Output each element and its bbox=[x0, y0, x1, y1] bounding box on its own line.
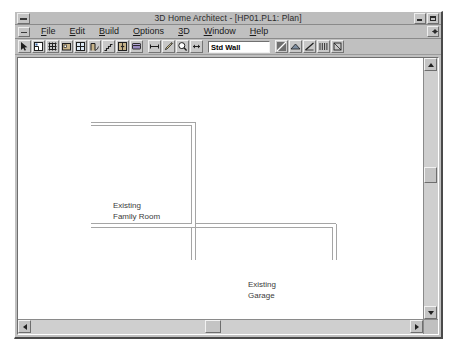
family-room-label-line1: Existing bbox=[113, 201, 141, 210]
menu-item-options[interactable]: Options bbox=[126, 25, 171, 38]
pan-tool-button[interactable] bbox=[190, 40, 203, 53]
horizontal-scrollbar[interactable] bbox=[18, 319, 423, 334]
wall-type-input[interactable]: Std Wall bbox=[208, 41, 270, 53]
window-title: 3D Home Architect - [HP01.PL1: Plan] bbox=[15, 12, 441, 24]
vertical-scrollbar[interactable] bbox=[423, 58, 438, 319]
floor-plan-drawing bbox=[19, 59, 423, 319]
title-bar: 3D Home Architect - [HP01.PL1: Plan] bbox=[15, 12, 441, 25]
document-frame: ExistingFamily Room ExistingGarage bbox=[17, 57, 439, 335]
zoom-tool-button[interactable] bbox=[176, 40, 189, 53]
family-room-label: ExistingFamily Room bbox=[113, 200, 160, 222]
scroll-down-button[interactable] bbox=[424, 306, 437, 319]
scroll-left-button[interactable] bbox=[18, 320, 31, 333]
slope-tool-button[interactable] bbox=[303, 40, 316, 53]
vertical-scrollbar-track[interactable] bbox=[424, 71, 438, 306]
door-tool-button[interactable] bbox=[88, 40, 101, 53]
wall-swatch-tool-button[interactable] bbox=[275, 40, 288, 53]
menu-item-3d[interactable]: 3D bbox=[171, 25, 197, 38]
scroll-right-button[interactable] bbox=[410, 320, 423, 333]
cabinet-tool-button[interactable] bbox=[116, 40, 129, 53]
menu-item-help[interactable]: Help bbox=[243, 25, 276, 38]
toolbar: Std Wall bbox=[15, 39, 441, 55]
garage-label: ExistingGarage bbox=[248, 279, 276, 301]
floor-plan-tool-button[interactable] bbox=[32, 40, 45, 53]
menu-item-edit[interactable]: Edit bbox=[63, 25, 93, 38]
vertical-scrollbar-thumb[interactable] bbox=[424, 167, 437, 183]
menu-item-build[interactable]: Build bbox=[92, 25, 126, 38]
room-tool-button[interactable] bbox=[60, 40, 73, 53]
minimize-button[interactable] bbox=[414, 13, 426, 24]
chevron-up-icon bbox=[428, 63, 434, 67]
document-system-menu-button[interactable] bbox=[18, 27, 30, 37]
chevron-down-icon bbox=[428, 311, 434, 315]
menu-bar: File Edit Build Options 3D Window Help bbox=[15, 25, 441, 39]
dimension-tool-button[interactable] bbox=[148, 40, 161, 53]
maximize-button[interactable] bbox=[427, 13, 439, 24]
select-arrow-tool-button[interactable] bbox=[18, 40, 31, 53]
pencil-tool-button[interactable] bbox=[162, 40, 175, 53]
restore-document-button[interactable] bbox=[427, 26, 439, 37]
family-room-label-line2: Family Room bbox=[113, 212, 160, 221]
garage-label-line1: Existing bbox=[248, 280, 276, 289]
garage-label-line2: Garage bbox=[248, 291, 275, 300]
plan-canvas[interactable]: ExistingFamily Room ExistingGarage bbox=[19, 59, 423, 319]
chevron-right-icon bbox=[415, 324, 419, 330]
stairs-tool-button[interactable] bbox=[102, 40, 115, 53]
minimize-icon bbox=[417, 19, 422, 21]
system-menu-button[interactable] bbox=[17, 13, 30, 24]
maximize-icon bbox=[430, 16, 436, 21]
chevron-left-icon bbox=[23, 324, 27, 330]
title-bar-buttons bbox=[414, 13, 439, 24]
roof-tool-button[interactable] bbox=[289, 40, 302, 53]
application-window: 3D Home Architect - [HP01.PL1: Plan] Fil… bbox=[14, 11, 443, 339]
menu-item-file[interactable]: File bbox=[34, 25, 63, 38]
document-area: ExistingFamily Room ExistingGarage bbox=[17, 57, 439, 335]
horizontal-scrollbar-thumb[interactable] bbox=[205, 320, 221, 333]
misc-tool-button[interactable] bbox=[331, 40, 344, 53]
deck-tool-button[interactable] bbox=[317, 40, 330, 53]
window-tool-button[interactable] bbox=[74, 40, 87, 53]
scrollbar-corner bbox=[423, 319, 438, 334]
furniture-tool-button[interactable] bbox=[130, 40, 143, 53]
grid-tool-button[interactable] bbox=[46, 40, 59, 53]
scroll-up-button[interactable] bbox=[424, 58, 437, 71]
menu-item-window[interactable]: Window bbox=[197, 25, 243, 38]
